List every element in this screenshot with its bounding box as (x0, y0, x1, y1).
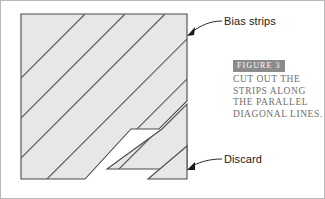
callout-label-discard: Discard (224, 153, 262, 165)
figure-number-badge: FIGURE 3 (233, 60, 285, 72)
caption-line: CUT OUT THE (233, 74, 325, 86)
figure-caption: FIGURE 3 CUT OUT THE STRIPS ALONG THE PA… (233, 54, 325, 120)
discard-arrowhead (187, 162, 195, 170)
caption-line: STRIPS ALONG (233, 86, 325, 98)
caption-line: THE PARALLEL (233, 97, 325, 109)
caption-line: DIAGONAL LINES. (233, 109, 325, 121)
figure-container: Bias strips Discard FIGURE 3 CUT OUT THE… (0, 0, 325, 199)
discard-leader (187, 159, 222, 170)
discard-leader-line (194, 159, 222, 165)
bias-strips-leader-line (193, 21, 222, 31)
bias-strips-arrowhead (187, 27, 195, 36)
bias-strips-leader (187, 21, 222, 36)
callout-label-bias-strips: Bias strips (224, 15, 276, 27)
